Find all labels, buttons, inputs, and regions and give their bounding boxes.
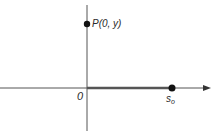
- origin-label: 0: [77, 91, 83, 102]
- point-p: [84, 21, 90, 27]
- x-axis-arrow-icon: [203, 85, 211, 91]
- point-s0-label: so: [166, 94, 175, 105]
- point-p-label: P(0, y): [92, 19, 121, 29]
- s0-label-sub: o: [171, 98, 175, 105]
- point-s0: [169, 85, 176, 92]
